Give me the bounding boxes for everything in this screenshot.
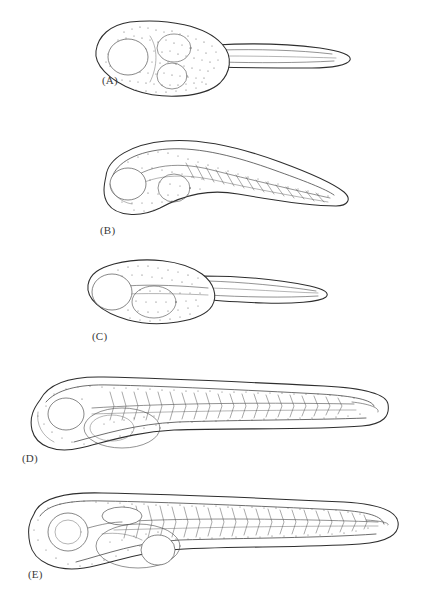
panel-e-label: (E) [28,568,43,580]
panel-a-stage-drawing: (A) [88,18,378,98]
panel-e-stage-drawing: (E) [10,484,410,576]
figure-sheet: (A) [0,0,424,594]
panel-c-svg [78,252,338,330]
panel-b-stage-drawing: (B) [82,132,372,224]
panel-b-svg [82,132,372,224]
panel-a-optic-vesicle [108,39,148,75]
panel-d-label: (D) [22,452,38,464]
panel-d-stage-drawing: (D) [14,372,408,458]
panel-a-svg [88,18,378,98]
panel-a-label: (A) [102,74,118,86]
panel-c-label: (C) [92,330,107,342]
panel-e-svg [10,484,410,576]
panel-d-eye [48,398,84,430]
panel-b-label: (B) [100,224,115,236]
panel-d-svg [14,372,408,458]
panel-e-eye [48,513,88,551]
panel-c-stage-drawing: (C) [78,252,338,330]
panel-e-gut-coil [141,535,175,565]
panel-c-eye [92,274,132,310]
